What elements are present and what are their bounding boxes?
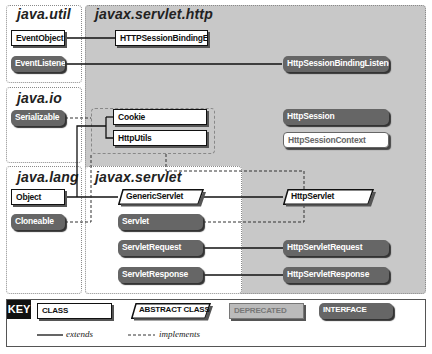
implements-line [166,154,304,190]
class-label: GenericServlet [118,191,183,201]
deprecated-HttpSessionContext[interactable]: HttpSessionContext [283,132,389,148]
interface-Cloneable[interactable]: Cloneable [11,214,65,230]
key-line-samples [7,300,427,348]
legend-key: KEY CLASS ABSTRACT CLASS DEPRECATED INTE… [6,299,426,347]
class-Cookie[interactable]: Cookie [113,109,207,125]
interface-EventListener[interactable]: EventListener [11,56,65,72]
extends-label: extends [66,329,93,339]
extends-line [106,117,113,138]
interface-HttpServletRequest[interactable]: HttpServletRequest [283,240,389,256]
class-Object[interactable]: Object [11,189,65,205]
interface-Servlet[interactable]: Servlet [118,214,203,230]
interface-ServletResponse[interactable]: ServletResponse [118,267,203,283]
class-HTTPSessionBindingEvent[interactable]: HTTPSessionBindingEvent [115,30,208,46]
implements-line [65,154,91,222]
abstract-class-HttpServlet[interactable]: HttpServlet [283,189,375,205]
class-HttpUtils[interactable]: HttpUtils [113,130,207,146]
interface-Serializable[interactable]: Serializable [11,110,65,126]
interface-HttpSession[interactable]: HttpSession [283,109,389,125]
implements-label: implements [159,329,200,339]
interface-HttpSessionBindingListener[interactable]: HttpSessionBindingListener [283,56,389,72]
class-EventObject[interactable]: EventObject [11,30,65,46]
interface-ServletRequest[interactable]: ServletRequest [118,240,203,256]
interface-HttpServletResponse[interactable]: HttpServletResponse [283,267,389,283]
abstract-class-GenericServlet[interactable]: GenericServlet [118,189,205,205]
class-label: HttpServlet [283,191,334,201]
